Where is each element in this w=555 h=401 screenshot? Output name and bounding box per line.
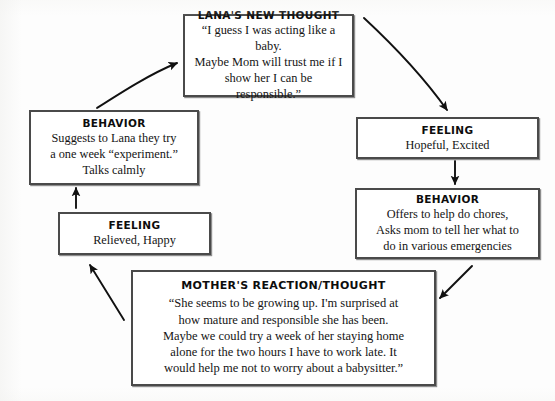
node-title: BEHAVIOR bbox=[416, 192, 479, 206]
diagram-page: LANA'S NEW THOUGHT “I guess I was acting… bbox=[0, 0, 555, 401]
arrow-behavior-right-to-mother bbox=[440, 266, 472, 298]
node-title: BEHAVIOR bbox=[82, 116, 145, 130]
node-body: Suggests to Lana they try a one week “ex… bbox=[50, 131, 178, 178]
node-title: FEELING bbox=[422, 123, 474, 137]
node-title: MOTHER'S REACTION/THOUGHT bbox=[181, 279, 385, 294]
node-behavior-left: BEHAVIOR Suggests to Lana they try a one… bbox=[29, 110, 199, 185]
node-title: FEELING bbox=[109, 218, 161, 232]
node-feeling-left: FEELING Relieved, Happy bbox=[58, 212, 211, 255]
node-lanas-new-thought: LANA'S NEW THOUGHT “I guess I was acting… bbox=[183, 14, 354, 97]
node-behavior-right: BEHAVIOR Offers to help do chores, Asks … bbox=[355, 188, 540, 259]
node-body: “I guess I was acting like a baby. Maybe… bbox=[191, 23, 346, 102]
arrow-behavior-left-to-thought bbox=[97, 63, 177, 108]
node-body: Offers to help do chores, Asks mom to te… bbox=[376, 207, 519, 254]
node-body: Hopeful, Excited bbox=[405, 138, 489, 154]
arrow-thought-to-feeling-right bbox=[364, 18, 447, 110]
node-mothers-reaction-thought: MOTHER'S REACTION/THOUGHT “She seems to … bbox=[131, 270, 436, 386]
node-body: “She seems to be growing up. I'm surpris… bbox=[163, 295, 404, 376]
node-title: LANA'S NEW THOUGHT bbox=[198, 8, 340, 22]
arrow-mother-to-feeling-left bbox=[90, 265, 124, 320]
node-feeling-right: FEELING Hopeful, Excited bbox=[356, 117, 539, 159]
node-body: Relieved, Happy bbox=[93, 233, 176, 249]
